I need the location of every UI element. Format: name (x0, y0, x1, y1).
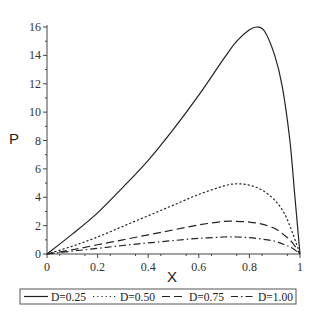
x-tick-label: 0 (44, 260, 50, 274)
x-tick-label: 1 (297, 260, 303, 274)
y-tick-label: 2 (35, 219, 41, 233)
plot-area (47, 27, 300, 254)
y-tick-label: 6 (35, 162, 41, 176)
x-axis-title: X (167, 268, 177, 285)
x-tick-label: 0.6 (191, 260, 206, 274)
series-line-1 (47, 27, 300, 254)
series-line-4 (47, 237, 300, 254)
y-tick-label: 12 (29, 77, 41, 91)
x-tick-label: 0.8 (242, 260, 257, 274)
y-tick-label: 10 (29, 105, 41, 119)
legend-label: D=0.50 (120, 291, 155, 303)
series-line-3 (47, 221, 300, 254)
y-tick-label: 0 (35, 247, 41, 261)
y-tick-label: 16 (29, 20, 41, 34)
x-tick-label: 0.2 (90, 260, 105, 274)
x-tick-label: 0.4 (141, 260, 156, 274)
legend-label: D=0.75 (189, 291, 224, 303)
legend-label: D=0.25 (51, 291, 86, 303)
legend-label: D=1.00 (258, 291, 293, 303)
legend: D=0.25D=0.50D=0.75D=1.00 (20, 289, 296, 304)
series-line-2 (47, 184, 300, 254)
y-axis-title: P (9, 130, 19, 147)
y-tick-label: 14 (29, 48, 41, 62)
y-tick-label: 8 (35, 134, 41, 148)
chart: 00.20.40.60.810246810121416 P X D=0.25D=… (0, 0, 317, 318)
y-tick-label: 4 (35, 190, 41, 204)
